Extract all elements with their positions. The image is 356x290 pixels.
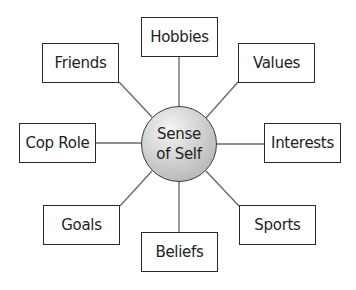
link-sports [206, 171, 239, 206]
hub-label-line1: Sense [157, 124, 201, 144]
link-friends [119, 82, 152, 117]
node-goals: Goals [43, 205, 120, 245]
node-label: Beliefs [155, 243, 203, 261]
node-label: Hobbies [150, 28, 209, 46]
node-sports: Sports [239, 205, 316, 245]
node-friends: Friends [42, 43, 119, 83]
node-label: Sports [254, 216, 300, 234]
hub-label-line2: of Self [156, 144, 201, 164]
node-label: Cop Role [26, 134, 90, 152]
node-label: Values [253, 54, 300, 72]
node-cop-role: Cop Role [19, 123, 96, 163]
node-label: Goals [61, 216, 101, 234]
center-hub: Sense of Self [141, 106, 217, 182]
link-values [206, 82, 238, 118]
node-hobbies: Hobbies [141, 17, 218, 57]
node-beliefs: Beliefs [141, 232, 218, 272]
link-goals [120, 171, 152, 206]
node-interests: Interests [264, 123, 341, 163]
node-label: Interests [271, 134, 334, 152]
node-values: Values [238, 43, 315, 83]
node-label: Friends [55, 54, 107, 72]
